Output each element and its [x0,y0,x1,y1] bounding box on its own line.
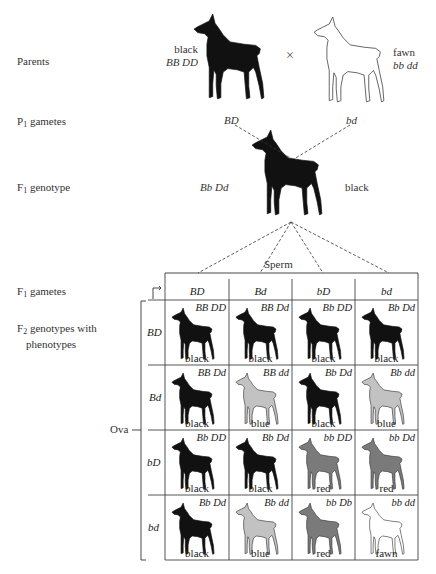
cell-phenotype: red [292,482,355,494]
punnett-cell: Bb Ddblack [165,495,229,560]
cell-genotype: Bb dd [264,497,289,508]
cell-phenotype: red [355,482,418,494]
ova-label: Ova [110,423,128,435]
cell-phenotype: blue [355,417,418,429]
cell-phenotype: black [229,482,292,494]
col-header: Bd [229,285,292,297]
cell-phenotype: black [165,417,229,429]
row-label: BD [147,326,162,338]
cell-genotype: BB Dd [198,367,226,378]
col-header: bD [292,285,355,297]
cell-genotype: Bb Dd [325,367,352,378]
punnett-cell: bb Dbred [292,495,355,560]
cell-genotype: Bb Dd [388,302,415,313]
cell-phenotype: red [292,547,355,559]
cell-genotype: bb dd [391,497,415,508]
punnett-cell: Bb Ddblack [292,365,355,430]
cell-genotype: BB dd [263,367,289,378]
punnett-cell: bb DDred [292,430,355,495]
cell-phenotype: black [165,352,229,364]
cell-phenotype: black [292,352,355,364]
cell-phenotype: blue [229,547,292,559]
cell-genotype: Bb Dd [199,497,226,508]
sperm-label: Sperm [264,258,293,270]
punnett-cell: bb ddfawn [355,495,418,560]
cell-genotype: Bb Dd [262,432,289,443]
punnett-cell: BB ddblue [229,365,292,430]
cell-phenotype: black [165,547,229,559]
punnett-cell: BB Ddblack [229,300,292,365]
punnett-cell: BB Ddblack [165,365,229,430]
cell-genotype: bb DD [324,432,352,443]
cell-genotype: BB DD [195,302,226,313]
punnett-cell: Bb Ddblack [229,430,292,495]
cell-genotype: Bb DD [197,432,226,443]
punnett-cell: Bb DDblack [165,430,229,495]
punnett-cell: Bb Ddblack [355,300,418,365]
cell-phenotype: black [165,482,229,494]
cell-phenotype: black [229,352,292,364]
cell-phenotype: blue [229,417,292,429]
cell-genotype: BB Dd [261,302,289,313]
cell-genotype: bb Db [326,497,352,508]
cell-phenotype: black [355,352,418,364]
punnett-cell: Bb ddblue [229,495,292,560]
col-header: BD [165,285,229,297]
cell-genotype: Bb DD [323,302,352,313]
punnett-cell: Bb DDblack [292,300,355,365]
cell-genotype: bb Dd [389,432,415,443]
row-label: Bd [149,391,161,403]
punnett-cell: Bb ddblue [355,365,418,430]
punnett-cell: BB DDblack [165,300,229,365]
cell-genotype: Bb dd [390,367,415,378]
row-label: bD [147,456,160,468]
cell-phenotype: fawn [355,547,418,559]
punnett-cell: bb Ddred [355,430,418,495]
col-header: bd [355,285,418,297]
cell-phenotype: black [292,417,355,429]
row-label: bd [148,521,159,533]
